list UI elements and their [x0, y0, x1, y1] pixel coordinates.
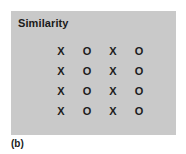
grid-cell-o-r1c4: O: [126, 41, 152, 61]
similarity-panel: Similarity XOXOXOXOXOXOXOXO: [11, 11, 176, 135]
grid-cell-x-r4c3: X: [100, 101, 126, 121]
panel-title: Similarity: [18, 17, 69, 30]
symbol-grid: XOXOXOXOXOXOXOXO: [48, 41, 152, 121]
grid-cell-x-r1c1: X: [48, 41, 74, 61]
grid-cell-o-r3c2: O: [74, 81, 100, 101]
grid-cell-x-r2c1: X: [48, 61, 74, 81]
grid-cell-o-r1c2: O: [74, 41, 100, 61]
grid-cell-o-r3c4: O: [126, 81, 152, 101]
grid-cell-x-r3c1: X: [48, 81, 74, 101]
figure-panel-b: Similarity XOXOXOXOXOXOXOXO (b): [0, 0, 186, 154]
grid-cell-x-r4c1: X: [48, 101, 74, 121]
grid-cell-o-r2c2: O: [74, 61, 100, 81]
grid-cell-x-r1c3: X: [100, 41, 126, 61]
grid-cell-o-r4c4: O: [126, 101, 152, 121]
grid-cell-o-r4c2: O: [74, 101, 100, 121]
grid-cell-x-r3c3: X: [100, 81, 126, 101]
grid-cell-o-r2c4: O: [126, 61, 152, 81]
figure-caption: (b): [11, 138, 24, 150]
grid-cell-x-r2c3: X: [100, 61, 126, 81]
